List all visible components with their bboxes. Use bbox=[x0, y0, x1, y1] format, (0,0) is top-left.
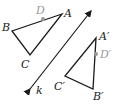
line-k bbox=[30, 11, 91, 89]
label-b-prime: B′ bbox=[92, 90, 104, 103]
label-c-prime: C′ bbox=[54, 80, 65, 93]
reflection-diagram: k A B C D A′ B′ C′ D′ bbox=[0, 0, 123, 104]
label-d-prime: D′ bbox=[99, 48, 112, 61]
label-d: D bbox=[35, 4, 45, 17]
triangle-a-prime-b-prime-c-prime bbox=[65, 38, 96, 89]
label-a: A bbox=[63, 7, 72, 20]
point-d-prime bbox=[94, 52, 98, 56]
triangle-abc bbox=[12, 14, 62, 55]
point-d bbox=[41, 17, 45, 21]
line-k-label: k bbox=[36, 84, 43, 97]
label-a-prime: A′ bbox=[98, 30, 110, 43]
label-b: B bbox=[1, 21, 10, 34]
label-c: C bbox=[21, 58, 30, 71]
